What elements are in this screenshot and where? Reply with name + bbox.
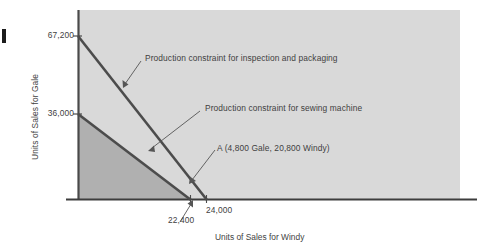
sewing-machine-label: Production constraint for sewing machine [205, 104, 362, 113]
y-tick-label-36000: 36,000 [36, 109, 74, 118]
x-tick-label-22400: 22,400 [168, 216, 194, 225]
y-axis-title: Units of Sales for Gale [30, 74, 40, 160]
chart-figure: 67,200 36,000 22,400 24,000 Production c… [0, 0, 477, 250]
inspection-packaging-label: Production constraint for inspection and… [145, 54, 338, 63]
point-a-label: A (4,800 Gale, 20,800 Windy) [217, 144, 330, 153]
y-tick-label-67200: 67,200 [36, 31, 74, 40]
x-tick-label-24000: 24,000 [206, 206, 232, 215]
x-axis-title: Units of Sales for Windy [215, 232, 304, 242]
